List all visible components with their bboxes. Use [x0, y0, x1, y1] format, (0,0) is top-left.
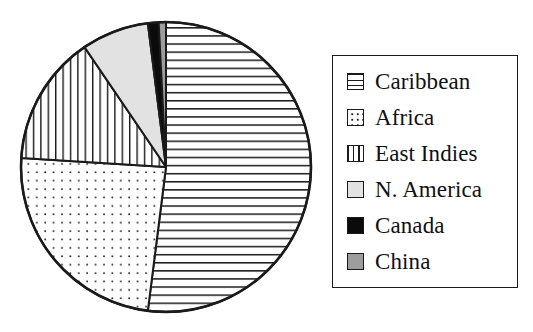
vlines-swatch-icon	[347, 145, 364, 162]
legend-item-east-indies[interactable]: East Indies	[333, 135, 517, 171]
legend-item-n-america[interactable]: N. America	[333, 171, 517, 207]
light-gray-swatch-icon	[347, 181, 364, 198]
legend-item-caribbean[interactable]: Caribbean	[333, 63, 517, 99]
chart-legend: Caribbean Africa East Indies N. America …	[332, 55, 518, 288]
pie-chart-plot-area	[18, 19, 314, 315]
pie-slice-africa[interactable]	[21, 158, 166, 311]
legend-item-label: Africa	[375, 106, 434, 129]
legend-item-label: Caribbean	[375, 70, 470, 93]
gray-swatch-icon	[347, 253, 364, 270]
black-swatch-icon	[347, 217, 364, 234]
pie-chart-figure: Caribbean Africa East Indies N. America …	[0, 0, 533, 332]
legend-item-label: Canada	[375, 214, 445, 237]
legend-item-label: China	[375, 250, 430, 273]
legend-item-africa[interactable]: Africa	[333, 99, 517, 135]
hlines-swatch-icon	[347, 73, 364, 90]
pie-chart-svg	[18, 19, 314, 315]
dots-swatch-icon	[347, 109, 364, 126]
pie-slice-caribbean[interactable]	[148, 22, 311, 312]
legend-item-china[interactable]: China	[333, 243, 517, 279]
legend-item-canada[interactable]: Canada	[333, 207, 517, 243]
legend-item-label: East Indies	[375, 142, 478, 165]
legend-item-label: N. America	[375, 178, 482, 201]
